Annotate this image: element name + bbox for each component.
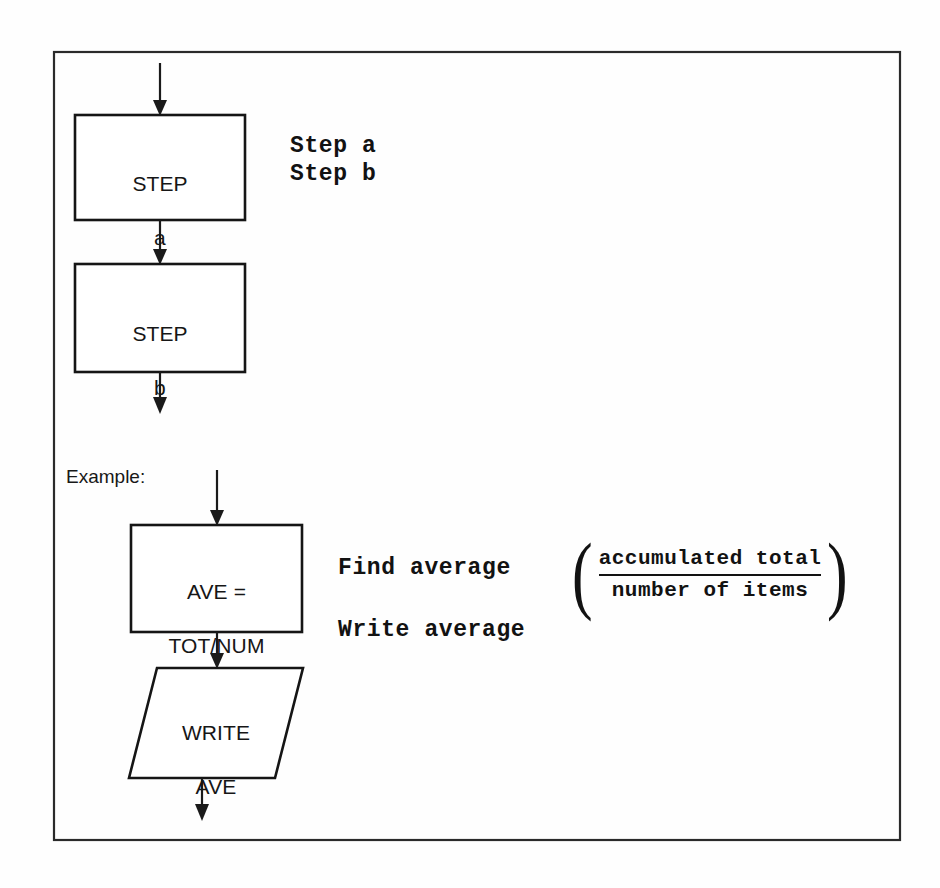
connector-write-to-exit (195, 778, 209, 821)
fraction-column: accumulated total number of items (599, 545, 822, 605)
annotation-write-average: Write average (338, 615, 525, 645)
fraction-denominator: number of items (612, 577, 809, 604)
annotation-find-average: Find average (338, 553, 511, 583)
open-paren-glyph: ( (572, 540, 593, 609)
node-ave-assign-shape (131, 525, 302, 632)
connector-step-a-to-step-b (153, 220, 167, 265)
connector-entry-to-ave (210, 470, 224, 526)
fraction-expression: ( accumulated total number of items ) (568, 540, 852, 609)
fraction-numerator: accumulated total (599, 545, 822, 572)
annotation-step-b: Step b (290, 159, 376, 189)
annotation-step-a: Step a (290, 131, 376, 161)
node-step-a-shape (75, 115, 245, 220)
flowchart-graphics (0, 0, 940, 888)
connector-entry-to-step-a (153, 63, 167, 116)
node-step-b-shape (75, 264, 245, 372)
close-paren-glyph: ) (827, 540, 848, 609)
connector-step-b-to-exit (153, 372, 167, 414)
node-write-ave-shape (129, 668, 303, 778)
connector-ave-to-write (210, 632, 224, 669)
fraction-rule (599, 574, 822, 577)
diagram-canvas: STEP a STEP b AVE = TOT/NUM WRITE AVE St… (0, 0, 940, 888)
example-caption: Example: (66, 466, 145, 488)
